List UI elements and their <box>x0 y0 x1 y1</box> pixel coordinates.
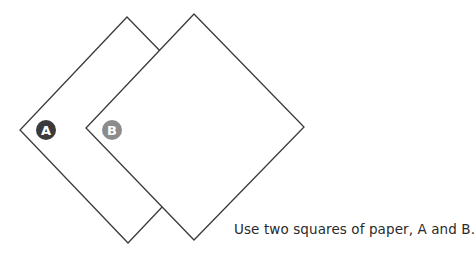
caption: Use two squares of paper, A and B. <box>234 221 475 237</box>
badge-b-label: B <box>107 123 117 138</box>
badge-a: A <box>36 120 56 140</box>
badge-b: B <box>102 120 122 140</box>
badge-a-label: A <box>41 123 51 138</box>
